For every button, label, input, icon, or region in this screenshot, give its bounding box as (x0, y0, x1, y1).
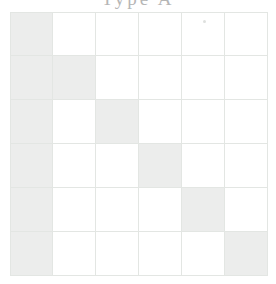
grid-cell-r2-c2 (53, 56, 96, 100)
grid-cell-r6-c4 (139, 232, 182, 276)
figure-title: Type A (0, 0, 276, 11)
grid-cell-r2-c6 (225, 56, 268, 100)
grid-cell-r4-c1 (10, 144, 53, 188)
grid-cell-r6-c5 (182, 232, 225, 276)
grid-cell-r6-c2 (53, 232, 96, 276)
grid-cell-r5-c4 (139, 188, 182, 232)
grid-cell-r6-c1 (10, 232, 53, 276)
grid-cell-r3-c1 (10, 100, 53, 144)
grid-cell-r3-c2 (53, 100, 96, 144)
grid-cell-r5-c1 (10, 188, 53, 232)
grid-cell-r5-c6 (225, 188, 268, 232)
grid-cell-r2-c1 (10, 56, 53, 100)
grid-cell-r4-c3 (96, 144, 139, 188)
grid-cell-r3-c4 (139, 100, 182, 144)
grid-cell-r2-c3 (96, 56, 139, 100)
matrix-grid (10, 12, 268, 276)
grid-cell-r1-c3 (96, 12, 139, 56)
grid-cell-r1-c2 (53, 12, 96, 56)
grid-cell-r5-c2 (53, 188, 96, 232)
grid-cell-r2-c4 (139, 56, 182, 100)
grid-cell-r3-c5 (182, 100, 225, 144)
grid-cell-r1-c5 (182, 12, 225, 56)
grid-cell-r1-c4 (139, 12, 182, 56)
grid-cell-r2-c5 (182, 56, 225, 100)
grid-cell-r4-c4 (139, 144, 182, 188)
grid-cell-r6-c3 (96, 232, 139, 276)
grid-cell-r3-c6 (225, 100, 268, 144)
grid-cell-r3-c3 (96, 100, 139, 144)
grid-cell-r1-c6 (225, 12, 268, 56)
grid-cell-r4-c5 (182, 144, 225, 188)
grid-cell-r5-c5 (182, 188, 225, 232)
grid-cell-r5-c3 (96, 188, 139, 232)
grid-cell-r4-c6 (225, 144, 268, 188)
grid-cell-r4-c2 (53, 144, 96, 188)
grid-cell-r6-c6 (225, 232, 268, 276)
figure-title-text: Type A (101, 0, 174, 8)
grid-cell-r1-c1 (10, 12, 53, 56)
